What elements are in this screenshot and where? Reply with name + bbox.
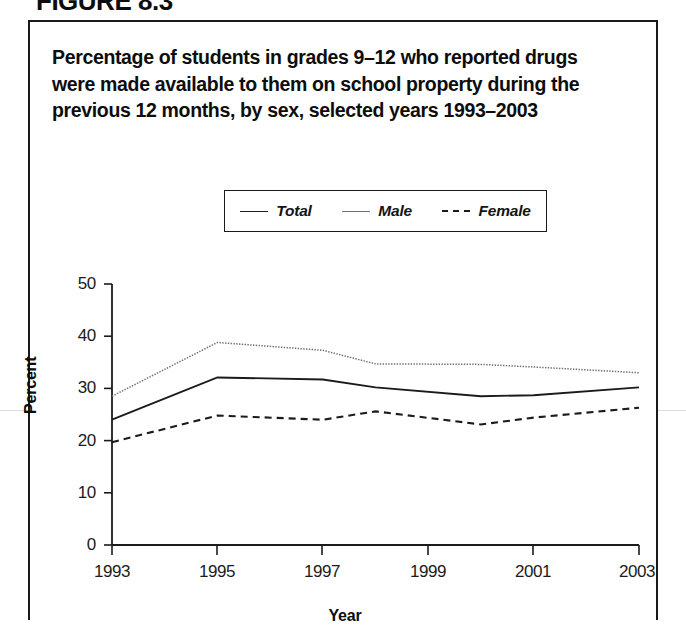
x-axis-ticks: [112, 545, 639, 555]
series-line-total: [112, 377, 639, 419]
y-tick-label-30: 30: [62, 378, 96, 398]
x-tick-label-2003: 2003: [607, 562, 667, 582]
y-tick-label-0: 0: [62, 535, 96, 555]
y-tick-label-10: 10: [62, 483, 96, 503]
y-axis-ticks: [104, 284, 112, 545]
figure-number: FIGURE 8.3: [36, 0, 173, 17]
x-axis-label: Year: [30, 607, 660, 625]
y-axis-label: Percent: [22, 357, 40, 414]
x-tick-label-1995: 1995: [187, 562, 247, 582]
x-tick-label-2001: 2001: [503, 562, 563, 582]
plot-area: 50 40 30 20 10 0 1993 1995 1997 1999 200…: [30, 22, 660, 605]
x-tick-label-1993: 1993: [82, 562, 142, 582]
y-tick-label-50: 50: [62, 274, 96, 294]
plot-svg: [30, 22, 660, 605]
y-tick-label-20: 20: [62, 431, 96, 451]
x-tick-label-1997: 1997: [292, 562, 352, 582]
figure-panel: Percentage of students in grades 9–12 wh…: [28, 20, 658, 620]
y-tick-label-40: 40: [62, 326, 96, 346]
x-tick-label-1999: 1999: [398, 562, 458, 582]
series-line-female: [112, 408, 639, 442]
